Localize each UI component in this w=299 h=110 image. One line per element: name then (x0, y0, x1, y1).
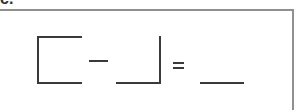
minuend-box-left-line (37, 36, 39, 84)
minuend-box-top-line (37, 36, 82, 38)
problem-frame (0, 9, 294, 110)
subtrahend-box-right-line (159, 36, 161, 84)
answer-blank-line (200, 82, 244, 84)
subtrahend-box-bottom-line (116, 82, 161, 84)
minuend-box-bottom-line (37, 82, 82, 84)
problem-label: c. (0, 0, 13, 7)
equals-sign-top-bar (173, 62, 184, 64)
equals-sign-bottom-bar (173, 67, 184, 69)
minus-sign (89, 60, 108, 62)
